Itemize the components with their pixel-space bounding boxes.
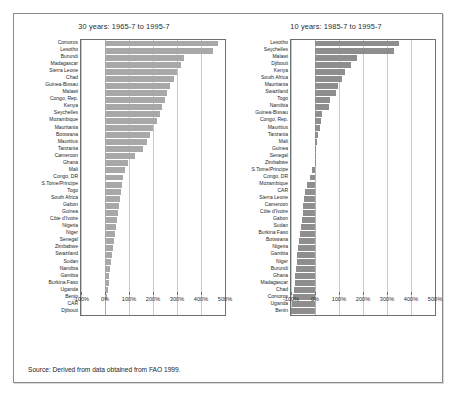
bar — [315, 153, 316, 159]
bar — [105, 139, 147, 145]
axis-tick — [153, 292, 154, 295]
bar — [304, 196, 315, 202]
axis-tick — [315, 292, 316, 295]
axis-tick-label: 400% — [194, 296, 208, 302]
bar — [105, 125, 153, 131]
bar — [105, 182, 122, 188]
bar — [105, 153, 135, 159]
category-label: Guinea — [272, 146, 288, 151]
bar — [315, 132, 318, 138]
category-label: Gabon — [273, 216, 288, 221]
category-label: Cameroon — [265, 202, 288, 207]
category-axis-labels: LesothoSeychellesMalawiDjiboutiKenyaSout… — [232, 39, 290, 316]
category-label: Burkina Faso — [49, 280, 78, 285]
bar — [105, 146, 143, 152]
category-label: Madagascar — [260, 280, 288, 285]
bar — [315, 90, 336, 96]
axis-tick-label: 500% — [428, 296, 442, 302]
bar — [105, 280, 109, 286]
axis-tick-label: -100% — [73, 296, 89, 302]
axis-tick — [411, 292, 412, 295]
bar — [315, 97, 330, 103]
axis-tick-label: 400% — [404, 296, 418, 302]
bar — [300, 231, 315, 237]
category-label: Niger — [66, 230, 78, 235]
chart-10-years: 10 years: 1985-7 to 1995-7 LesothoSeyche… — [232, 14, 440, 344]
axis-tick — [225, 292, 226, 295]
category-label: S.Tome/Principe — [252, 167, 288, 172]
bar — [302, 217, 315, 223]
category-label: Congo, Rep. — [260, 117, 288, 122]
category-label: Lesotho — [60, 47, 78, 52]
bar — [305, 189, 315, 195]
bar — [105, 104, 162, 110]
bar — [105, 231, 115, 237]
bar — [105, 273, 109, 279]
axis-tick — [105, 292, 106, 295]
category-label: Togo — [67, 188, 78, 193]
axis-tick — [81, 292, 82, 295]
category-label: Burundi — [271, 266, 288, 271]
bar — [105, 160, 128, 166]
category-label: Nigeria — [62, 223, 78, 228]
bar — [105, 217, 117, 223]
category-label: Kenya — [64, 103, 78, 108]
category-label: Zimbabwe — [55, 244, 78, 249]
category-label: Chad — [276, 287, 288, 292]
gridline — [363, 40, 364, 315]
bar — [105, 55, 184, 61]
category-label: Tanzania — [268, 132, 288, 137]
bar — [315, 76, 342, 82]
category-label: Guinea-Bissau — [45, 82, 78, 87]
axis-tick-label: -100% — [283, 296, 299, 302]
charts-container: 30 years: 1965-7 to 1995-7 ComorosLesoth… — [14, 14, 442, 344]
bar — [315, 160, 316, 166]
bar — [301, 224, 315, 230]
category-label: Senegal — [60, 237, 78, 242]
category-label: Madagascar — [50, 61, 78, 66]
bar — [315, 125, 320, 131]
gridline — [81, 40, 82, 315]
category-label: Sudan — [64, 259, 78, 264]
axis-tick-label: 0% — [311, 296, 319, 302]
value-axis: -100%0%100%200%300%400%500% — [290, 292, 436, 310]
bar — [295, 273, 315, 279]
category-label: Benin — [275, 308, 288, 313]
source-note: Source: Derived from data obtained from … — [28, 366, 180, 373]
bar — [105, 266, 110, 272]
category-label: Gabon — [63, 202, 78, 207]
gridline — [201, 40, 202, 315]
chart-title: 30 years: 1965-7 to 1995-7 — [18, 22, 230, 31]
category-label: CAR — [277, 188, 288, 193]
bar — [315, 139, 317, 145]
gridline — [291, 40, 292, 315]
category-label: Namibia — [60, 266, 78, 271]
bar — [105, 118, 157, 124]
bar — [105, 203, 119, 209]
bar — [315, 55, 357, 61]
bar — [105, 111, 160, 117]
axis-tick — [291, 292, 292, 295]
axis-tick-label: 200% — [146, 296, 160, 302]
bar — [315, 48, 394, 54]
category-label: South Africa — [51, 195, 78, 200]
bar — [315, 111, 322, 117]
category-label: Chad — [66, 75, 78, 80]
bar — [105, 196, 120, 202]
category-label: Swaziland — [55, 251, 78, 256]
axis-tick — [201, 292, 202, 295]
category-label: Mozambique — [49, 117, 78, 122]
value-axis: -100%0%100%200%300%400%500% — [80, 292, 226, 310]
category-label: Mauritania — [265, 82, 288, 87]
bar — [105, 238, 114, 244]
category-label: Djibouti — [61, 308, 78, 313]
category-label: Gambia — [270, 251, 288, 256]
bar — [105, 252, 112, 258]
bar — [105, 224, 116, 230]
category-label: Burundi — [61, 54, 78, 59]
category-label: Djibouti — [271, 61, 288, 66]
axis-tick — [435, 292, 436, 295]
bar — [303, 203, 315, 209]
bar — [315, 41, 399, 47]
category-label: Mali — [279, 139, 288, 144]
